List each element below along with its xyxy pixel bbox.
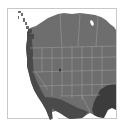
lake [59,68,61,71]
gulf-of-california [52,111,58,121]
map-canvas [0,0,121,130]
coastal-islands [18,11,34,39]
